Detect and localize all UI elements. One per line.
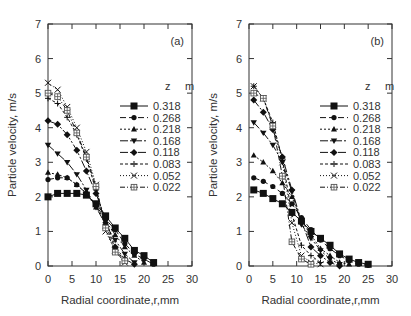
legend-label: 0.022 [153, 181, 181, 193]
legend-item: 0.052 [320, 170, 381, 182]
y-tick-label: 0 [236, 260, 242, 272]
data-point-marker [288, 186, 295, 193]
data-point-marker [45, 193, 52, 200]
data-point-marker [318, 237, 323, 242]
legend-item: 0.168 [320, 135, 381, 147]
series-line [254, 178, 368, 265]
legend: zm0.3180.2680.2180.1680.1180.0830.0520.0… [320, 80, 394, 193]
legend-label: 0.118 [153, 146, 180, 158]
y-tick-label: 6 [236, 53, 242, 65]
legend-label: 0.268 [153, 112, 181, 124]
panel-label: (a) [171, 35, 184, 47]
panel-b: 05101520253001234567Radial coordinate,r,… [207, 18, 398, 306]
legend-marker-marker [331, 103, 338, 110]
x-tick-label: 5 [69, 273, 75, 285]
legend-marker-marker [331, 161, 337, 167]
legend-marker-marker [131, 161, 137, 167]
panel-a: 05101520253001234567Radial coordinate,r,… [6, 18, 198, 306]
legend-item: 0.218 [320, 123, 381, 135]
legend-item: 0.118 [120, 146, 180, 158]
panel-label: (b) [371, 35, 384, 47]
legend-label: 0.052 [353, 170, 381, 182]
x-tick-label: 10 [291, 273, 303, 285]
legend-item: 0.318 [320, 100, 381, 112]
data-point-marker [260, 159, 266, 164]
x-tick-label: 25 [162, 273, 174, 285]
data-point-marker [280, 191, 285, 196]
data-point-marker [308, 227, 313, 232]
data-point-marker [74, 130, 80, 136]
x-axis-label: Radial coordinate,r,mm [61, 294, 179, 306]
data-point-marker [336, 263, 343, 270]
data-point-marker [337, 253, 342, 258]
legend-item: 0.052 [120, 170, 181, 182]
legend-marker-marker [131, 103, 138, 110]
data-point-marker [270, 123, 276, 129]
data-point-marker [73, 147, 80, 154]
legend-label: 0.168 [153, 135, 181, 147]
data-point-marker [55, 171, 61, 176]
legend-label: 0.083 [353, 158, 381, 170]
legend-title-unit: m [385, 80, 394, 92]
data-point-marker [251, 152, 257, 157]
y-axis-label: Particle velocity, m/s [207, 93, 219, 197]
data-point-marker [299, 256, 305, 262]
data-point-marker [269, 195, 276, 202]
y-tick-label: 2 [35, 191, 41, 203]
series-0.022 [251, 90, 314, 267]
legend-item: 0.022 [320, 181, 381, 193]
data-point-marker [93, 184, 99, 190]
data-point-marker [112, 249, 118, 255]
data-point-marker [64, 190, 71, 197]
y-tick-label: 3 [236, 156, 242, 168]
data-point-marker [54, 121, 61, 128]
data-point-marker [103, 225, 109, 231]
legend-title-z: z [165, 80, 171, 92]
x-tick-label: 25 [362, 273, 374, 285]
data-point-marker [250, 186, 257, 193]
data-point-marker [55, 87, 61, 93]
data-point-marker [327, 259, 334, 266]
x-tick-label: 30 [186, 273, 198, 285]
legend-label: 0.318 [153, 100, 181, 112]
data-point-marker [308, 261, 314, 267]
series-0.318 [45, 190, 158, 266]
data-point-marker [308, 253, 314, 259]
legend-label: 0.052 [153, 170, 181, 182]
legend-marker-marker [131, 173, 137, 179]
data-point-marker [261, 96, 267, 102]
data-point-marker [122, 258, 128, 264]
legend-item: 0.168 [120, 135, 181, 147]
legend-marker-marker [331, 173, 337, 179]
x-tick-label: 0 [45, 273, 51, 285]
data-point-marker [270, 184, 275, 189]
x-tick-label: 20 [338, 273, 350, 285]
legend-item: 0.318 [120, 100, 181, 112]
x-tick-label: 0 [246, 273, 252, 285]
data-point-marker [45, 117, 52, 124]
legend-label: 0.083 [153, 158, 181, 170]
legend: zm0.3180.2680.2180.1680.1180.0830.0520.0… [120, 80, 194, 193]
data-point-marker [289, 239, 295, 245]
legend-title-unit: m [185, 80, 194, 92]
data-point-marker [366, 263, 371, 268]
legend-marker-marker [331, 115, 336, 120]
legend-item: 0.118 [320, 146, 380, 158]
legend-item: 0.022 [120, 181, 181, 193]
legend-marker-marker [331, 149, 338, 156]
legend-label: 0.218 [153, 123, 181, 135]
data-point-marker [251, 175, 256, 180]
legend-label: 0.118 [353, 146, 380, 158]
data-point-marker [261, 179, 266, 184]
data-point-marker [73, 190, 80, 197]
legend-label: 0.268 [353, 112, 381, 124]
data-point-marker [55, 94, 61, 100]
x-axis-label: Radial coordinate,r,mm [261, 294, 379, 306]
x-tick-label: 15 [114, 273, 126, 285]
x-tick-label: 10 [90, 273, 102, 285]
legend-label: 0.218 [353, 123, 381, 135]
data-point-marker [45, 90, 51, 96]
data-point-marker [327, 246, 332, 251]
y-tick-label: 4 [35, 122, 41, 134]
data-point-marker [280, 173, 286, 179]
